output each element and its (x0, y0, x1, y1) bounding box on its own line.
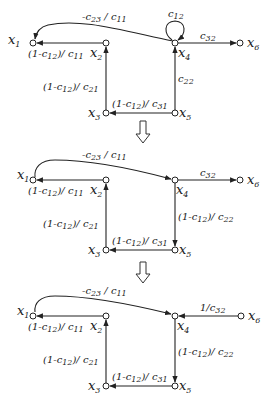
gain-x4-x1: -c23 / c11 (82, 11, 127, 24)
gain-x1-x4: -c23 / c11 (82, 149, 127, 162)
node-x6 (238, 313, 244, 319)
down-arrow-icon (136, 121, 150, 143)
gain-x3-x2: (1-c12)/ c21 (43, 218, 99, 231)
diagram-2: x1 x2 x4 x6 x3 x5 -c23 / c11 c32 (1-c12)… (17, 149, 259, 259)
node-x3 (103, 383, 109, 389)
gain-x6-x4: 1/c32 (200, 302, 226, 315)
label-x4: x4 (176, 182, 188, 199)
label-x6: x6 (247, 172, 259, 189)
gain-x5-x4: c22 (178, 73, 194, 86)
signal-flow-graph-figure: x1 x2 x4 x6 x3 x5 -c23 / c11 c12 c32 (1-… (0, 0, 276, 411)
node-x1 (30, 177, 36, 183)
gain-x5-x3: (1-c12)/ c31 (112, 235, 168, 248)
node-x1 (30, 313, 36, 319)
node-x5 (172, 247, 178, 253)
node-x6 (237, 40, 243, 46)
node-x1 (30, 40, 36, 46)
label-x2: x2 (90, 45, 102, 62)
gain-x5-x3: (1-c12)/ c31 (112, 371, 168, 384)
label-x2: x2 (90, 318, 102, 335)
gain-x4-self: c12 (168, 8, 184, 21)
node-x3 (103, 110, 109, 116)
node-x5 (172, 383, 178, 389)
node-x2 (103, 40, 109, 46)
gain-x4-x6: c32 (200, 167, 216, 180)
label-x6: x6 (247, 35, 259, 52)
label-x3: x3 (88, 378, 100, 395)
label-x5: x5 (179, 378, 191, 395)
label-x1: x1 (17, 167, 29, 184)
node-x5 (172, 110, 178, 116)
gain-x4-x5: (1-c12)/ c22 (178, 211, 234, 224)
edge-x4-self-loop (166, 21, 184, 40)
label-x3: x3 (88, 242, 100, 259)
node-x2 (103, 177, 109, 183)
gain-x3-x2: (1-c12)/ c21 (43, 354, 99, 367)
node-x3 (103, 247, 109, 253)
edge-x1-x4-curve (35, 160, 171, 179)
label-x1: x1 (17, 303, 29, 320)
label-x4: x4 (177, 318, 189, 335)
diagram-1: x1 x2 x4 x6 x3 x5 -c23 / c11 c12 c32 (1-… (8, 8, 259, 122)
label-x2: x2 (90, 182, 102, 199)
label-x3: x3 (88, 105, 100, 122)
edge-x1-x4-curve (35, 296, 171, 314)
node-x2 (103, 313, 109, 319)
gain-x5-x3: (1-c12)/ c31 (112, 98, 168, 111)
gain-x1-x4: -c23 / c11 (82, 285, 127, 298)
gain-x3-x2: (1-c12)/ c21 (43, 81, 99, 94)
gain-x4-x5: (1-c12)/ c22 (178, 346, 234, 359)
label-x4: x4 (178, 45, 190, 62)
label-x1: x1 (8, 32, 20, 49)
down-arrow-icon (136, 262, 150, 283)
label-x6: x6 (248, 308, 260, 325)
gain-x4-x6: c32 (200, 30, 216, 43)
gain-x2-x1: (1-c12)/ c11 (28, 321, 84, 334)
gain-x2-x1: (1-c12)/ c11 (28, 185, 84, 198)
edge-x4-x1-curve (35, 23, 173, 41)
diagram-3: x1 x2 x4 x6 x3 x5 -c23 / c11 1/c32 (1-c1… (17, 285, 260, 395)
gain-x2-x1: (1-c12)/ c11 (28, 48, 84, 61)
node-x6 (237, 177, 243, 183)
label-x5: x5 (179, 242, 191, 259)
label-x5: x5 (179, 105, 191, 122)
